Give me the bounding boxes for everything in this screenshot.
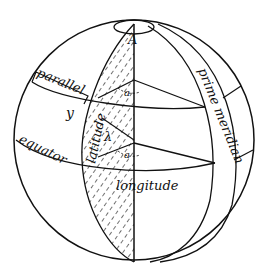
parallel-label: parallel: [35, 65, 87, 98]
tick: [223, 86, 241, 98]
radius-upper: [134, 80, 205, 107]
prime-meridian-label: prime meridian: [195, 66, 247, 166]
y-label: y: [65, 105, 75, 121]
equator-label: equator: [17, 131, 70, 167]
angle-a-upper: a: [124, 87, 130, 98]
longitude-label: longitude: [116, 178, 179, 193]
radius-lower: [134, 143, 215, 163]
angle-a-lower: a: [124, 149, 130, 160]
prime-meridian-inner: [148, 26, 213, 262]
globe-diagram: A a a y λ parallel equator latitude long…: [0, 0, 269, 279]
pole-label: A: [127, 32, 137, 47]
